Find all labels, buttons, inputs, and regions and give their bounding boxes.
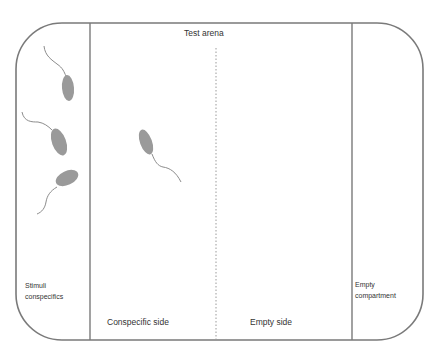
conspecific-side-label: Conspecific side [107, 318, 169, 327]
arena-title: Test arena [184, 29, 224, 38]
empty-compartment-label-line1: Empty [355, 279, 396, 290]
fish-icon [37, 167, 81, 214]
stimuli-conspecifics-label: Stimuli conspecifics [25, 280, 63, 302]
empty-compartment-label: Empty compartment [355, 279, 396, 301]
empty-side-label: Empty side [250, 318, 292, 327]
arena-diagram [0, 0, 439, 356]
fish-icon [44, 46, 75, 101]
fish-icon [22, 112, 70, 158]
stimuli-label-line1: Stimuli [25, 280, 63, 291]
fish-icon [136, 128, 181, 182]
stimuli-label-line2: conspecifics [25, 291, 63, 302]
empty-compartment-label-line2: compartment [355, 290, 396, 301]
